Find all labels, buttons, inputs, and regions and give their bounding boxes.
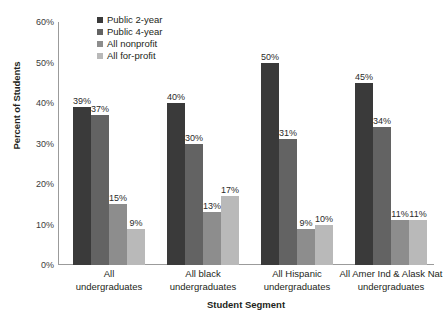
- bar-rect[interactable]: [409, 220, 427, 265]
- bar-value-label: 13%: [203, 201, 221, 211]
- bar-item[interactable]: 39%: [73, 22, 91, 265]
- bar-rect[interactable]: [391, 220, 409, 265]
- x-category-label: All Amer Ind & Alask Natundergraduates: [331, 268, 447, 293]
- bar-rect[interactable]: [221, 196, 239, 265]
- bar-rect[interactable]: [185, 144, 203, 266]
- bar-rect[interactable]: [109, 204, 127, 265]
- bar-rect[interactable]: [203, 212, 221, 265]
- bar-value-label: 40%: [167, 92, 185, 102]
- bar-rect[interactable]: [261, 63, 279, 266]
- legend-label: All for-profit: [107, 50, 156, 61]
- bar-rect[interactable]: [91, 115, 109, 265]
- y-axis-title: Percent of Students: [11, 46, 22, 166]
- bar-value-label: 9%: [299, 218, 312, 228]
- bar-rect[interactable]: [297, 229, 315, 265]
- legend-item[interactable]: Public 4-year: [97, 26, 162, 37]
- bar-item[interactable]: 11%: [409, 22, 427, 265]
- y-tick-label: 40%: [36, 98, 54, 108]
- bar-value-label: 9%: [129, 218, 142, 228]
- bar-value-label: 11%: [391, 209, 408, 219]
- x-axis-title: Student Segment: [58, 299, 434, 310]
- bar-rect[interactable]: [167, 103, 185, 265]
- bar-group: 50%31%9%10%: [261, 22, 333, 265]
- bar-item[interactable]: 13%: [203, 22, 221, 265]
- x-category-line: All Amer Ind & Alask Nat: [331, 268, 447, 281]
- legend-label: Public 4-year: [107, 26, 162, 37]
- bar-rect[interactable]: [315, 225, 333, 266]
- x-category-line: undergraduates: [331, 281, 447, 294]
- bar-rect[interactable]: [373, 127, 391, 265]
- bar-item[interactable]: 17%: [221, 22, 239, 265]
- y-tick-label: 60%: [36, 17, 54, 27]
- bar-value-label: 30%: [185, 133, 203, 143]
- y-tick-label: 30%: [36, 139, 54, 149]
- bar-rect[interactable]: [73, 107, 91, 265]
- bar-item[interactable]: 40%: [167, 22, 185, 265]
- bar-rect[interactable]: [279, 139, 297, 265]
- bar-rect[interactable]: [127, 229, 145, 265]
- bar-rect[interactable]: [355, 83, 373, 265]
- legend-item[interactable]: Public 2-year: [97, 14, 162, 25]
- bar-item[interactable]: 45%: [355, 22, 373, 265]
- legend-swatch-icon: [97, 29, 103, 35]
- chart-legend: Public 2-yearPublic 4-yearAll nonprofitA…: [97, 14, 162, 62]
- legend-swatch-icon: [97, 53, 103, 59]
- bar-value-label: 37%: [91, 104, 109, 114]
- bar-item[interactable]: 11%: [391, 22, 409, 265]
- legend-item[interactable]: All for-profit: [97, 50, 162, 61]
- bar-group: 45%34%11%11%: [355, 22, 427, 265]
- bar-item[interactable]: 10%: [315, 22, 333, 265]
- bar-item[interactable]: 31%: [279, 22, 297, 265]
- bar-item[interactable]: 30%: [185, 22, 203, 265]
- bar-value-label: 10%: [315, 214, 333, 224]
- bar-value-label: 11%: [409, 209, 426, 219]
- bar-value-label: 45%: [355, 72, 373, 82]
- legend-swatch-icon: [97, 17, 103, 23]
- bar-item[interactable]: 34%: [373, 22, 391, 265]
- legend-label: Public 2-year: [107, 14, 162, 25]
- bar-value-label: 31%: [279, 128, 297, 138]
- legend-item[interactable]: All nonprofit: [97, 38, 162, 49]
- x-axis-category-labels: AllundergraduatesAll blackundergraduates…: [58, 268, 434, 298]
- bar-value-label: 34%: [373, 116, 391, 126]
- legend-label: All nonprofit: [107, 38, 157, 49]
- legend-swatch-icon: [97, 41, 103, 47]
- bar-item[interactable]: 9%: [297, 22, 315, 265]
- bar-value-label: 50%: [261, 52, 279, 62]
- bar-item[interactable]: 50%: [261, 22, 279, 265]
- y-tick-label: 20%: [36, 179, 54, 189]
- bar-group: 40%30%13%17%: [167, 22, 239, 265]
- bar-value-label: 39%: [73, 96, 91, 106]
- bar-value-label: 17%: [221, 185, 239, 195]
- y-tick-label: 10%: [36, 220, 54, 230]
- y-tick-label: 50%: [36, 58, 54, 68]
- bar-value-label: 15%: [109, 193, 127, 203]
